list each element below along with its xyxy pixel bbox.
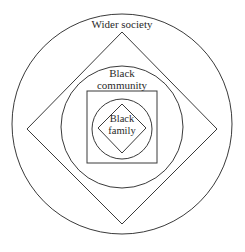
black-community-label-line1: Black [82,67,162,79]
wider-society-label: Wider society [82,18,162,30]
black-family-label-line2: family [97,125,147,137]
black-family-label: Black family [97,113,147,137]
black-community-label-line2: community [82,79,162,91]
black-community-label: Black community [82,67,162,91]
black-family-label-line1: Black [97,113,147,125]
